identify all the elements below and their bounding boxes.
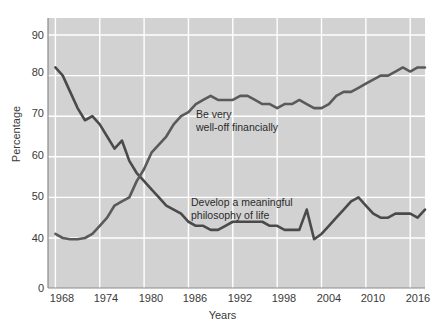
x-tick-label: 2016 bbox=[388, 292, 445, 304]
y-tick-label: 90 bbox=[4, 30, 44, 41]
y-axis-tick-labels: 90 80 70 60 50 40 0 bbox=[0, 0, 44, 326]
x-axis-title: Years bbox=[0, 309, 445, 321]
y-tick-label: 80 bbox=[4, 67, 44, 78]
plot-background bbox=[48, 18, 425, 288]
y-tick-label: 50 bbox=[4, 191, 44, 202]
y-tick-label: 70 bbox=[4, 108, 44, 119]
series-annotation-welloff: Be very well-off financially bbox=[196, 108, 278, 134]
y-tick-label: 40 bbox=[4, 233, 44, 244]
series-annotation-philosophy: Develop a meaningful philosophy of life bbox=[191, 196, 293, 222]
chart-figure: Percentage Years 90 80 70 60 50 40 0 196… bbox=[0, 0, 445, 326]
y-tick-label: 60 bbox=[4, 150, 44, 161]
plot-area bbox=[0, 0, 445, 326]
